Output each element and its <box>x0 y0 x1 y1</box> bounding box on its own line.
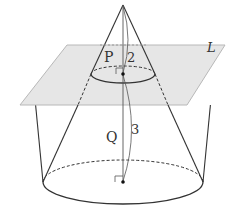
label-plane-l: L <box>207 41 216 54</box>
label-height-3: 3 <box>131 123 139 136</box>
base-center-point <box>121 180 125 184</box>
label-height-2: 2 <box>127 51 135 64</box>
cone-diagram: P 2 L Q 3 <box>0 0 236 216</box>
label-q: Q <box>106 130 117 144</box>
diagram-svg <box>0 0 236 216</box>
base-ellipse-front <box>43 182 203 204</box>
section-center-point <box>121 72 125 76</box>
label-p: P <box>104 50 113 64</box>
